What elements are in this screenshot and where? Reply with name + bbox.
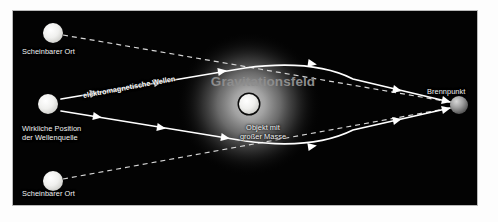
real-wave-source [38,94,58,114]
apparent-source-bottom [43,171,63,191]
figure-stage: Scheinbarer Ort Scheinbarer Ort Wirklich… [0,0,498,222]
massive-object-body [239,94,259,114]
diagram-canvas [13,11,477,205]
diagram-panel: Scheinbarer Ort Scheinbarer Ort Wirklich… [12,10,478,206]
apparent-source-top [43,23,63,43]
focal-point-sphere [450,96,468,114]
